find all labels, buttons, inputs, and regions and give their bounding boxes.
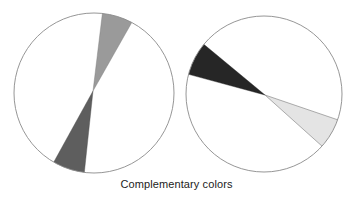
left-circle-group <box>14 0 174 185</box>
left-circle <box>14 13 174 173</box>
figure-caption: Complementary colors <box>0 178 353 190</box>
right-circle-group <box>180 16 350 172</box>
complementary-colors-diagram <box>0 0 353 197</box>
